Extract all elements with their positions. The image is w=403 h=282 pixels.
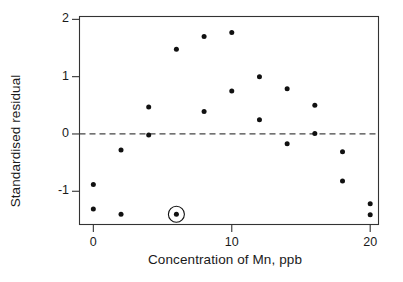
data-point (340, 149, 345, 154)
y-axis-tick-label: 2 (43, 11, 69, 25)
x-axis-tick-label: 10 (217, 235, 247, 249)
scatter-plot-figure: Standardised residual Concentration of M… (0, 0, 403, 282)
data-point (285, 86, 290, 91)
data-point (119, 212, 124, 217)
y-axis-tick-label: 0 (43, 126, 69, 140)
data-point (91, 182, 96, 187)
plot-canvas (0, 0, 403, 282)
data-point (91, 207, 96, 212)
data-point (368, 212, 373, 217)
data-point (257, 117, 262, 122)
data-point (174, 47, 179, 52)
data-point (146, 105, 151, 110)
x-axis-tick-label: 0 (78, 235, 108, 249)
data-point (146, 133, 151, 138)
plot-frame (80, 17, 379, 225)
data-point (285, 141, 290, 146)
data-point (119, 148, 124, 153)
data-point (312, 103, 317, 108)
x-axis-tick-label: 20 (355, 235, 385, 249)
data-point (257, 74, 262, 79)
data-point (174, 212, 179, 217)
data-point (312, 131, 317, 136)
data-point (229, 88, 234, 93)
data-point (202, 34, 207, 39)
data-point-group (91, 30, 373, 217)
data-point (340, 178, 345, 183)
y-axis-tick-label: -1 (43, 183, 69, 197)
data-point (202, 109, 207, 114)
y-axis-tick-label: 1 (43, 69, 69, 83)
data-point (229, 30, 234, 35)
data-point (368, 201, 373, 206)
